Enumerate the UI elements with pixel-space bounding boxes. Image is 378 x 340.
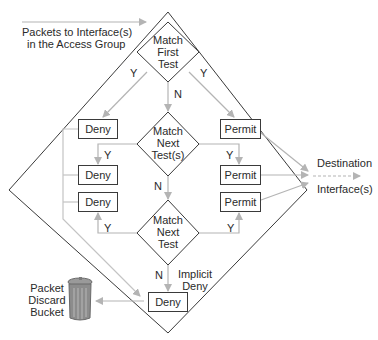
implicit-deny-label: Implicit Deny bbox=[173, 268, 217, 292]
no-label-2: N bbox=[154, 180, 162, 192]
discard-line2: Discard bbox=[26, 294, 68, 306]
decision-next-1-text: Match Next Test(s) bbox=[143, 125, 193, 161]
deny-box-2: Deny bbox=[78, 165, 118, 185]
permit-arrow-3 bbox=[261, 183, 308, 200]
decision-first-line1: Match bbox=[143, 34, 193, 46]
decision-first-line3: Test bbox=[143, 58, 193, 70]
input-label: Packets to Interface(s) in the Access Gr… bbox=[22, 26, 147, 50]
permit-box-2: Permit bbox=[220, 165, 261, 185]
discard-line3: Bucket bbox=[26, 306, 68, 318]
decision-next-1-line2: Next bbox=[143, 137, 193, 149]
yes-label-next-right: Y bbox=[226, 149, 233, 161]
permit-box-1: Permit bbox=[220, 119, 261, 139]
implicit-deny-line1: Implicit bbox=[173, 268, 217, 280]
decision-next-1-line1: Match bbox=[143, 125, 193, 137]
decision-first-text: Match First Test bbox=[143, 34, 193, 70]
input-label-line1: Packets to Interface(s) bbox=[22, 26, 147, 38]
decision-next-2-line2: Next bbox=[143, 226, 193, 238]
decision-next-2-line1: Match bbox=[143, 214, 193, 226]
trash-can-icon bbox=[68, 277, 92, 320]
discard-bucket-label: Packet Discard Bucket bbox=[26, 282, 68, 318]
yes-label-last-right: Y bbox=[227, 222, 234, 234]
permit-box-3: Permit bbox=[220, 192, 261, 212]
decision-next-2-line3: Test bbox=[143, 238, 193, 250]
decision-first-line2: First bbox=[143, 46, 193, 58]
decision-next-2-text: Match Next Test bbox=[143, 214, 193, 250]
yes-arrow-first-permit bbox=[189, 72, 234, 117]
yes-label-first-left: Y bbox=[130, 67, 137, 79]
destination-label-line1: Destination bbox=[317, 157, 372, 169]
yes-arrow-first-deny bbox=[103, 72, 147, 117]
yes-label-last-left: Y bbox=[104, 222, 111, 234]
deny-box-3: Deny bbox=[78, 192, 118, 212]
yes-label-next-left: Y bbox=[104, 149, 111, 161]
discard-line1: Packet bbox=[26, 282, 68, 294]
permit-arrow-1 bbox=[261, 133, 308, 171]
deny-box-1: Deny bbox=[78, 119, 118, 139]
decision-next-1-line3: Test(s) bbox=[143, 149, 193, 161]
no-label-3: N bbox=[155, 269, 163, 281]
implicit-deny-box: Deny bbox=[148, 292, 188, 312]
yes-label-first-right: Y bbox=[200, 67, 207, 79]
destination-label-line2: Interface(s) bbox=[317, 183, 373, 195]
input-label-line2: in the Access Group bbox=[22, 38, 147, 50]
deny-collector-line bbox=[63, 129, 140, 296]
implicit-deny-line2: Deny bbox=[173, 280, 217, 292]
no-label-1: N bbox=[174, 88, 182, 100]
